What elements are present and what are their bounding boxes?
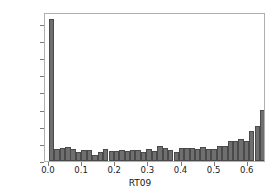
y-tick-mark xyxy=(40,25,44,26)
y-tick-mark xyxy=(40,111,44,112)
y-tick-mark xyxy=(40,42,44,43)
y-tick-mark xyxy=(40,93,44,94)
y-tick-mark xyxy=(40,145,44,146)
plot-area xyxy=(45,14,264,161)
histogram-bar xyxy=(200,147,205,161)
x-axis-label: RT09 xyxy=(0,178,280,188)
x-tick-label: 0.6 xyxy=(227,165,267,175)
histogram-bar xyxy=(119,150,124,161)
histogram-figure: RT09 020040060080010001200140016000.00.1… xyxy=(0,0,280,195)
histogram-bar xyxy=(87,150,92,161)
histogram-bar xyxy=(70,149,75,161)
histogram-bar xyxy=(249,131,254,161)
histogram-bar xyxy=(233,141,238,161)
histogram-bar xyxy=(184,148,189,161)
histogram-bar xyxy=(103,149,108,161)
histogram-bar xyxy=(217,146,222,161)
histogram-bar xyxy=(168,150,173,161)
histogram-bar xyxy=(54,149,59,161)
histogram-bar xyxy=(260,110,264,161)
histogram-bar xyxy=(49,19,54,161)
y-tick-mark xyxy=(40,59,44,60)
histogram-bar xyxy=(135,150,140,161)
y-tick-mark xyxy=(40,162,44,163)
y-tick-mark xyxy=(40,128,44,129)
y-tick-mark xyxy=(40,76,44,77)
histogram-bar xyxy=(152,151,157,161)
plot-frame xyxy=(44,13,265,162)
